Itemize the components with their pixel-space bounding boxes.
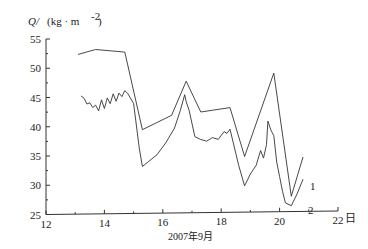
- y-axis-unit: (kg · m: [47, 15, 80, 28]
- x-tick-label: 14: [99, 217, 111, 229]
- x-axis-caption: 2007年9月: [168, 230, 213, 242]
- x-axis-unit: 日: [345, 212, 356, 224]
- y-tick-label: 35: [30, 150, 42, 162]
- y-tick-label: 40: [30, 121, 42, 133]
- axes: 25303540455055121416182022: [30, 33, 344, 230]
- x-tick-label: 12: [41, 218, 52, 230]
- x-tick-label: 20: [274, 215, 286, 227]
- x-tick-label: 16: [157, 216, 169, 228]
- y-tick-label: 50: [30, 62, 42, 74]
- x-tick-label: 22: [333, 214, 344, 226]
- series-label-1: 1: [310, 180, 316, 192]
- y-tick-label: 55: [30, 33, 42, 45]
- series-line-2: [81, 91, 303, 206]
- y-axis-unit-close: ): [98, 15, 102, 28]
- x-tick-label: 18: [216, 215, 228, 227]
- y-axis-title: Q/ (kg · m -2 ): [28, 10, 102, 28]
- series-line-1: [78, 50, 303, 197]
- series-lines: [78, 50, 303, 206]
- y-tick-label: 45: [30, 92, 42, 104]
- line-chart: Q/ (kg · m -2 ) 253035404550551214161820…: [0, 0, 368, 249]
- series-label-2: 2: [308, 204, 314, 216]
- y-axis-symbol: Q/: [28, 15, 40, 27]
- y-tick-label: 30: [30, 179, 42, 191]
